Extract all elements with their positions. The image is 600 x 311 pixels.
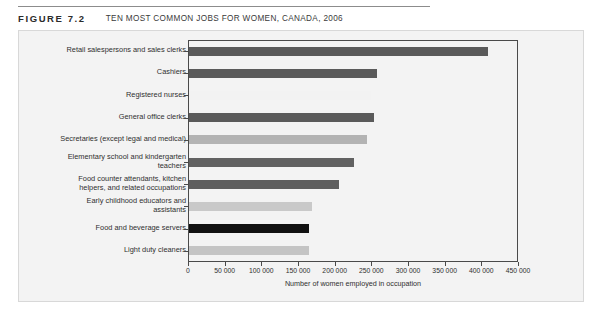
x-axis-tick-label: 150 000: [286, 267, 311, 274]
x-axis-tick: [371, 262, 372, 266]
category-label: Food and beverage servers: [26, 224, 186, 233]
category-label: Secretaries (except legal and medical): [26, 135, 186, 144]
bar-row: Retail salespersons and sales clerks: [0, 40, 600, 62]
x-axis-tick: [188, 262, 189, 266]
x-axis-tick: [261, 262, 262, 266]
x-axis-tick: [225, 262, 226, 266]
x-axis-tick: [518, 262, 519, 266]
x-axis-tick-label: 50 000: [214, 267, 235, 274]
figure-header: FIGURE 7.2 TEN MOST COMMON JOBS FOR WOME…: [18, 9, 578, 28]
category-label: Food counter attendants, kitchen helpers…: [26, 175, 186, 192]
category-label: Retail salespersons and sales clerks: [26, 46, 186, 55]
bar-row: Food counter attendants, kitchen helpers…: [0, 173, 600, 195]
category-label: Registered nurses: [26, 91, 186, 100]
x-axis-tick-label: 400 000: [469, 267, 494, 274]
bar-row: Secretaries (except legal and medical): [0, 129, 600, 151]
bar-row: Elementary school and kindergarten teach…: [0, 151, 600, 173]
x-axis-tick: [298, 262, 299, 266]
figure-title: TEN MOST COMMON JOBS FOR WOMEN, CANADA, …: [106, 14, 343, 23]
bar-row: General office clerks: [0, 107, 600, 129]
x-axis-tick-label: 100 000: [249, 267, 274, 274]
x-axis-label: Number of women employed in occupation: [188, 279, 518, 288]
category-label: Light duty cleaners: [26, 246, 186, 255]
category-label: General office clerks: [26, 113, 186, 122]
x-axis-tick-label: 350 000: [432, 267, 457, 274]
x-axis-tick-label: 250 000: [359, 267, 384, 274]
bar-row: Early childhood educators and assistants: [0, 195, 600, 217]
category-label: Cashiers: [26, 68, 186, 77]
bar: [189, 47, 488, 56]
bar-row: Food and beverage servers: [0, 218, 600, 240]
x-axis-tick: [408, 262, 409, 266]
bar: [189, 69, 377, 78]
bar: [189, 135, 367, 144]
bar: [189, 91, 371, 100]
bar: [189, 180, 339, 189]
bar: [189, 224, 309, 233]
bar: [189, 202, 312, 211]
bar-row: Registered nurses: [0, 84, 600, 106]
x-axis-tick-label: 450 000: [506, 267, 531, 274]
bar: [189, 113, 374, 122]
x-axis-tick: [445, 262, 446, 266]
x-axis-tick-label: 300 000: [396, 267, 421, 274]
category-label: Elementary school and kindergarten teach…: [26, 153, 186, 170]
bar: [189, 158, 354, 167]
figure-number: FIGURE 7.2: [18, 13, 86, 24]
bar-rows: Retail salespersons and sales clerksCash…: [0, 40, 600, 262]
bar: [189, 246, 309, 255]
bar-row: Cashiers: [0, 62, 600, 84]
x-axis-tick: [335, 262, 336, 266]
figure-container: FIGURE 7.2 TEN MOST COMMON JOBS FOR WOME…: [0, 0, 600, 311]
bar-row: Light duty cleaners: [0, 240, 600, 262]
header-divider: [18, 6, 430, 7]
x-axis-tick-label: 200 000: [322, 267, 347, 274]
category-label: Early childhood educators and assistants: [26, 197, 186, 214]
x-axis-tick-label: 0: [186, 267, 190, 274]
x-axis-tick: [481, 262, 482, 266]
